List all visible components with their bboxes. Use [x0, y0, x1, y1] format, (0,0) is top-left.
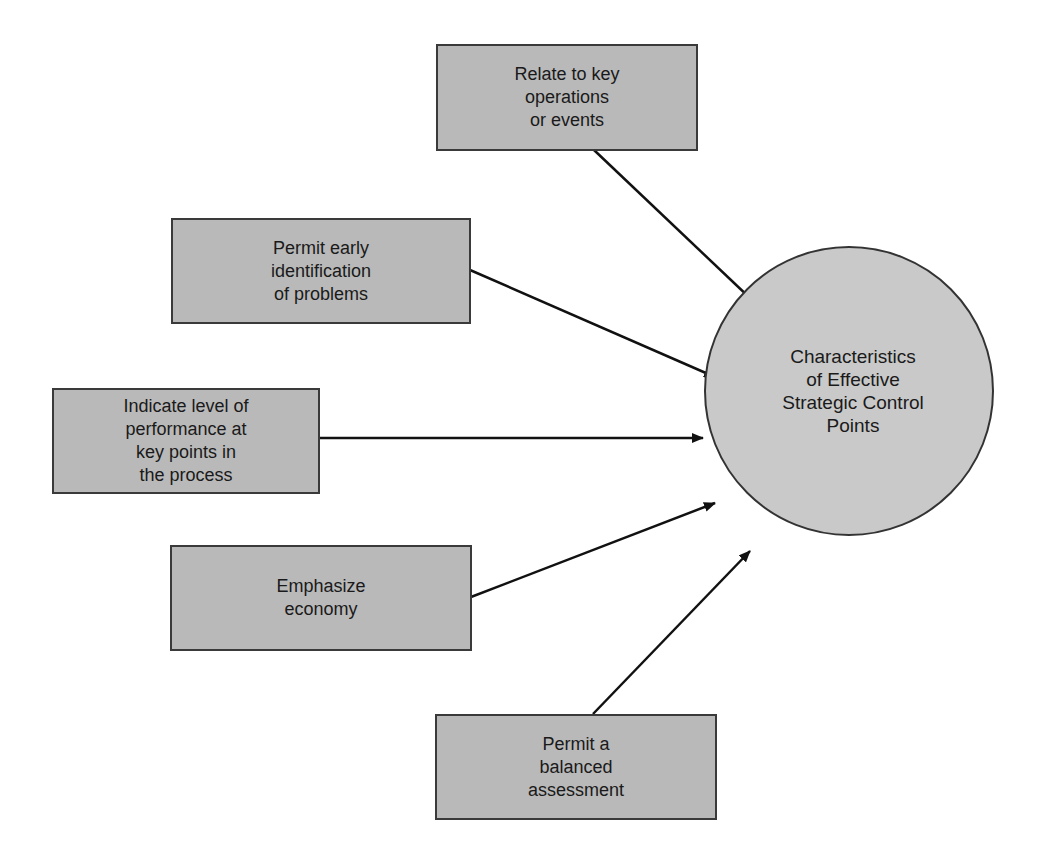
center-label: Characteristics of Effective Strategic C…	[774, 345, 924, 437]
arrow-economy-to-center	[471, 503, 715, 597]
arrow-balanced-to-center	[593, 551, 750, 714]
center-node-characteristics: Characteristics of Effective Strategic C…	[704, 246, 994, 536]
node-indicate-level-of-performance: Indicate level of performance at key poi…	[52, 388, 320, 494]
node-label: Indicate level of performance at key poi…	[123, 395, 248, 487]
strategic-control-points-diagram: Relate to key operations or events Permi…	[0, 0, 1062, 855]
node-label: Relate to key operations or events	[514, 63, 619, 132]
arrow-early-to-center	[470, 270, 715, 377]
node-relate-to-key-operations: Relate to key operations or events	[436, 44, 698, 151]
node-emphasize-economy: Emphasize economy	[170, 545, 472, 651]
node-permit-early-identification: Permit early identification of problems	[171, 218, 471, 324]
node-label: Permit a balanced assessment	[528, 733, 624, 802]
arrow-relate-to-center	[594, 150, 752, 300]
node-permit-balanced-assessment: Permit a balanced assessment	[435, 714, 717, 820]
node-label: Emphasize economy	[276, 575, 365, 621]
node-label: Permit early identification of problems	[271, 237, 371, 306]
